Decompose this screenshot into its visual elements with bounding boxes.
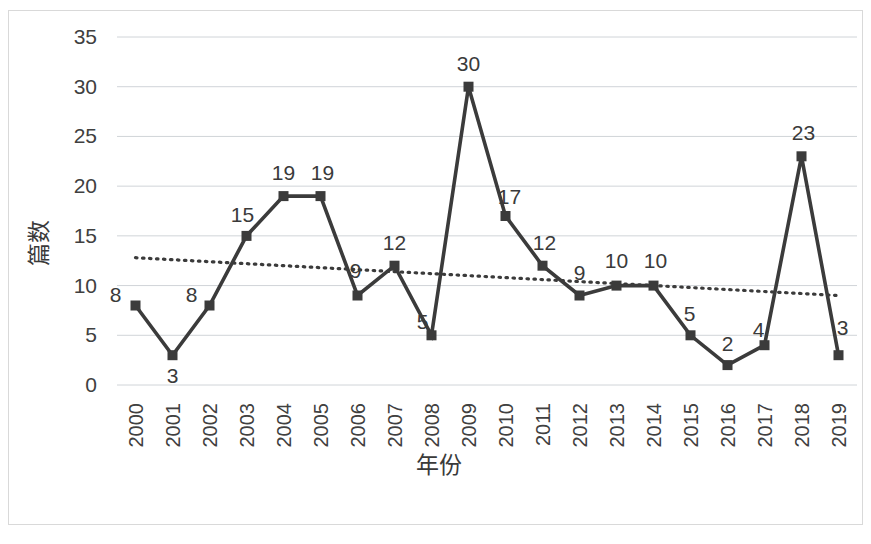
data-point-label: 9 (350, 259, 362, 282)
x-axis-tick-label: 2006 (347, 403, 369, 448)
x-axis-tick-label: 2019 (828, 403, 850, 448)
data-point-label: 19 (272, 161, 295, 184)
data-point-marker (205, 301, 215, 311)
y-axis-title: 篇数 (26, 220, 52, 266)
x-axis-tick-labels: 2000200120022003200420052006200720082009… (125, 403, 850, 448)
data-point-label: 8 (110, 283, 122, 306)
data-point-marker (834, 350, 844, 360)
data-point-marker (131, 301, 141, 311)
data-point-label: 9 (574, 261, 586, 284)
x-axis-tick-label: 2015 (680, 403, 702, 448)
data-point-label: 10 (644, 249, 667, 272)
x-axis-title: 年份 (416, 452, 462, 478)
y-axis-tick-labels: 05101520253035 (74, 25, 97, 396)
x-axis-tick-label: 2018 (791, 403, 813, 448)
data-point-label: 15 (231, 203, 254, 226)
data-point-label: 5 (684, 302, 696, 325)
data-point-marker (575, 291, 585, 301)
y-axis-tick-label: 35 (74, 25, 97, 48)
data-point-marker (390, 261, 400, 271)
x-axis-tick-label: 2009 (458, 403, 480, 448)
data-point-marker (464, 82, 474, 92)
y-axis-tick-label: 30 (74, 75, 97, 98)
x-axis-tick-label: 2004 (273, 403, 295, 448)
data-point-label: 4 (753, 318, 765, 341)
line-chart: 05101520253035 8381519199125301712910105… (9, 11, 862, 524)
y-axis-tick-label: 15 (74, 224, 97, 247)
x-axis-tick-label: 2003 (236, 403, 258, 448)
x-axis-tick-label: 2008 (421, 403, 443, 448)
x-axis-tick-label: 2016 (717, 403, 739, 448)
x-axis-tick-label: 2002 (199, 403, 221, 448)
y-axis-tick-label: 5 (85, 323, 97, 346)
y-axis-tick-label: 20 (74, 174, 97, 197)
data-point-label: 8 (186, 283, 198, 306)
y-axis-tick-label: 10 (74, 274, 97, 297)
data-point-marker (353, 291, 363, 301)
data-point-marker (316, 191, 326, 201)
data-point-label: 2 (722, 332, 734, 355)
data-point-label: 10 (605, 249, 628, 272)
x-axis-tick-label: 2011 (532, 403, 554, 446)
data-point-marker (797, 151, 807, 161)
grid-lines (117, 37, 857, 385)
data-point-marker (242, 231, 252, 241)
x-axis-tick-label: 2013 (606, 403, 628, 448)
data-point-label: 12 (533, 231, 556, 254)
data-point-label: 3 (837, 316, 849, 339)
y-axis-tick-label: 0 (85, 373, 97, 396)
data-point-label: 5 (417, 310, 429, 333)
x-axis-tick-label: 2017 (754, 403, 776, 448)
x-axis-tick-label: 2010 (495, 403, 517, 448)
data-point-label: 23 (792, 121, 815, 144)
x-axis-tick-label: 2001 (162, 403, 184, 448)
y-axis-tick-label: 25 (74, 124, 97, 147)
data-point-label: 30 (457, 52, 480, 75)
data-point-marker (501, 211, 511, 221)
chart-page: 05101520253035 8381519199125301712910105… (0, 0, 871, 544)
data-point-marker (760, 340, 770, 350)
data-point-label: 17 (498, 185, 521, 208)
x-axis-tick-label: 2014 (643, 403, 665, 448)
data-point-labels: 838151919912530171291010524233 (110, 52, 849, 388)
data-point-label: 12 (383, 231, 406, 254)
data-point-marker (649, 281, 659, 291)
data-point-marker (686, 330, 696, 340)
x-axis-tick-label: 2012 (569, 403, 591, 448)
x-axis-tick-label: 2005 (310, 403, 332, 448)
trend-line (136, 258, 839, 296)
data-point-marker (168, 350, 178, 360)
data-point-marker (723, 360, 733, 370)
x-axis-tick-label: 2007 (384, 403, 406, 448)
data-point-label: 19 (311, 161, 334, 184)
data-point-label: 3 (167, 364, 179, 387)
data-point-marker (538, 261, 548, 271)
chart-frame: 05101520253035 8381519199125301712910105… (8, 10, 863, 525)
x-axis-tick-label: 2000 (125, 403, 147, 448)
data-point-marker (612, 281, 622, 291)
data-point-marker (279, 191, 289, 201)
